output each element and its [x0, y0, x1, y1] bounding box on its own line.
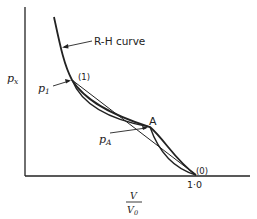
x-label-numerator: V [130, 190, 138, 201]
pA-label: pA [99, 133, 112, 147]
state-1-label: (1) [78, 72, 90, 82]
rayleigh-line [72, 80, 196, 175]
rankine-hugoniot-diagram: R-H curve px p1 (1) pA A (0) 1·0 V V0 [0, 0, 257, 219]
lower-curve-1-A [72, 80, 150, 127]
x-label-denominator: V0 [127, 204, 138, 217]
x-tick-label: 1·0 [187, 179, 202, 190]
arrowhead-icon [65, 79, 71, 84]
point-A-label: A [149, 115, 157, 128]
p1-label: p1 [38, 82, 50, 96]
rh-curve-label: R-H curve [94, 35, 145, 47]
state-0-label: (0) [196, 166, 208, 176]
y-axis-label: px [7, 72, 19, 86]
arrowhead-icon [62, 44, 69, 49]
